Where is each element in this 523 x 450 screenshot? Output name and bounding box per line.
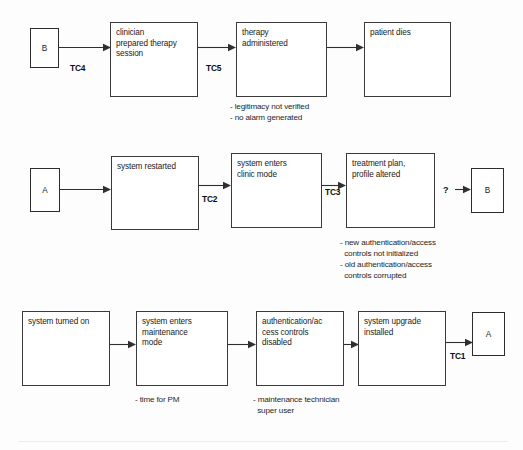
arrow-unknown-to-connector-b <box>455 185 471 194</box>
connector-a-in-label: A <box>42 186 47 195</box>
connector-b-in[interactable]: B <box>30 28 59 68</box>
connector-a-in[interactable]: A <box>30 168 60 212</box>
transition-label-tc4: TC4 <box>70 63 85 73</box>
box-system-enters-clinic-mode[interactable]: system enters clinic mode <box>231 153 322 228</box>
connector-a-out[interactable]: A <box>472 312 505 356</box>
unknown-transition-marker: ? <box>443 185 449 195</box>
arrow-restarted-to-clinic-mode <box>199 181 231 190</box>
box-treatment-plan-profile-altered[interactable]: treatment plan, profile altered <box>346 153 435 228</box>
transition-label-tc1: TC1 <box>450 351 465 361</box>
box-system-restarted[interactable]: system restarted <box>111 156 199 230</box>
connector-b-out[interactable]: B <box>471 168 504 213</box>
box-patient-dies[interactable]: patient dies <box>364 22 451 97</box>
arrow-clinician-to-therapy <box>198 43 236 52</box>
box-system-upgrade-installed[interactable]: system upgrade installed <box>358 311 446 386</box>
connector-b-in-label: B <box>42 44 47 53</box>
diagram-canvas: B TC4 clinician prepared therapy session… <box>0 0 523 450</box>
connector-a-out-label: A <box>486 330 491 339</box>
box-clinician-prepared-therapy-session[interactable]: clinician prepared therapy session <box>110 22 198 97</box>
transition-label-tc2: TC2 <box>202 194 217 204</box>
arrow-b-to-clinician <box>59 43 111 52</box>
box-system-turned-on[interactable]: system turned on <box>22 311 110 386</box>
arrow-therapy-to-patient-dies <box>327 43 364 52</box>
connector-b-out-label: B <box>485 186 490 195</box>
arrow-maintenance-to-access-controls <box>228 340 256 349</box>
arrow-access-controls-to-upgrade <box>344 340 359 349</box>
arrow-turned-on-to-maintenance <box>110 340 136 349</box>
transition-label-tc3: TC3 <box>325 187 340 197</box>
note-treatment-plan: - new authentication/access controls not… <box>340 237 436 281</box>
footer-divider <box>18 441 508 442</box>
note-therapy-administered: - legitimacy not verified - no alarm gen… <box>230 101 309 123</box>
box-system-enters-maintenance-mode[interactable]: system enters maintenance mode <box>136 311 228 386</box>
transition-label-tc5: TC5 <box>206 63 221 73</box>
arrow-a-to-system-restarted <box>60 185 111 194</box>
note-maintenance-mode: - time for PM <box>135 394 179 405</box>
box-therapy-administered[interactable]: therapy administered <box>236 22 327 97</box>
note-access-controls: - maintenance technician super user <box>253 394 339 416</box>
arrow-upgrade-to-connector-a <box>446 338 473 347</box>
box-authentication-access-controls-disabled[interactable]: authentication/ac cess controls disabled <box>256 311 344 386</box>
